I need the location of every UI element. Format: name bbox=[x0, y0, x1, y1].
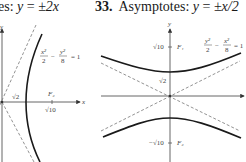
right-focus2-label: F₂ bbox=[176, 139, 184, 147]
left-asymptote-positive bbox=[0, 25, 36, 118]
right-graph: y √2 √10 F₁ −√10 F₂ y² 2 − x² 8 = 1 bbox=[101, 20, 244, 162]
right-hyperbola-upper-branch bbox=[101, 53, 241, 72]
left-y-axis-label: y bbox=[0, 23, 4, 31]
left-x-axis-label: x bbox=[81, 98, 86, 106]
right-y-axis-label: y bbox=[167, 20, 172, 28]
right-focus1-label: F₁ bbox=[176, 43, 184, 51]
right-eq-rhs: = 1 bbox=[234, 42, 244, 50]
left-eq-rhs: = 1 bbox=[71, 53, 81, 61]
left-eq-den2: 8 bbox=[61, 57, 65, 65]
left-eq-minus: − bbox=[51, 53, 55, 61]
left-graph: y x √2 F₂ √10 x² 2 − y² 8 = 1 bbox=[0, 23, 86, 162]
right-eq-den2: 8 bbox=[225, 46, 229, 54]
left-hyperbola-branch bbox=[26, 34, 42, 162]
left-focus-value-label: √10 bbox=[45, 106, 56, 114]
left-eq-den1: 2 bbox=[42, 57, 46, 65]
right-eq-den1: 2 bbox=[206, 46, 210, 54]
hyperbola-diagrams: y x √2 F₂ √10 x² 2 − y² 8 = 1 y bbox=[0, 0, 246, 162]
left-eq-num2: y² bbox=[59, 48, 66, 56]
right-eq-minus: − bbox=[215, 42, 219, 50]
left-origin bbox=[1, 101, 4, 104]
left-focus-label: F₂ bbox=[47, 90, 55, 98]
right-eq-num2: x² bbox=[223, 37, 230, 45]
right-eq-num1: y² bbox=[204, 37, 211, 45]
right-vertex-label: √2 bbox=[159, 77, 167, 85]
left-equation: x² 2 − y² 8 = 1 bbox=[40, 48, 81, 65]
right-equation: y² 2 − x² 8 = 1 bbox=[204, 37, 244, 54]
right-focus1-value-label: √10 bbox=[153, 43, 164, 51]
right-origin bbox=[169, 95, 172, 98]
left-vertex-label: √2 bbox=[12, 93, 20, 101]
right-focus2-value-label: −√10 bbox=[149, 139, 164, 147]
left-eq-num1: x² bbox=[40, 48, 47, 56]
